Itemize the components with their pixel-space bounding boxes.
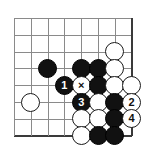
black-stone [105,126,124,145]
stone-label: 3 [78,97,84,108]
grid-line-vertical [31,18,32,136]
marked-stone-x: × [72,76,91,95]
stone-label: 4 [129,113,135,124]
white-stone [72,126,91,145]
move-stone-4: 4 [122,109,141,128]
white-stone [21,93,40,112]
go-board-diagram: 1×324 [0,0,148,158]
stone-label: 1 [61,80,67,91]
stone-label: × [78,80,84,91]
stone-label: 2 [129,97,135,108]
black-stone [38,59,57,78]
grid-line-vertical [14,18,15,136]
white-stone [122,76,141,95]
